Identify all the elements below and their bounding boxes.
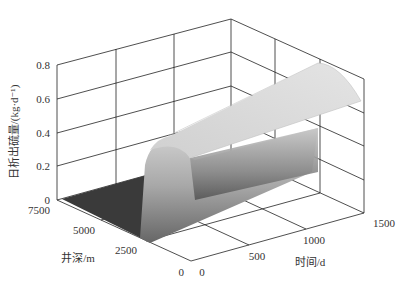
x-tick-1: 500 xyxy=(249,250,266,262)
y-axis-label: 井深/m xyxy=(61,251,95,264)
x-tick-0: 0 xyxy=(199,266,205,278)
x-axis-label: 时间/d xyxy=(295,256,326,268)
z-tick-2: 0.4 xyxy=(36,127,50,139)
y-tick-2: 5000 xyxy=(73,224,96,236)
surface-chart: 0 0.2 0.4 0.6 0.8 日析出硫量/(kg·d⁻¹) 0 2500 … xyxy=(0,0,411,292)
z-axis-ticks: 0 0.2 0.4 0.6 0.8 xyxy=(36,59,50,206)
y-tick-0: 0 xyxy=(179,266,185,278)
z-tick-4: 0.8 xyxy=(36,59,50,71)
z-tick-1: 0.2 xyxy=(36,160,50,172)
x-tick-2: 1000 xyxy=(303,234,326,246)
x-axis-ticks: 0 500 1000 1500 xyxy=(199,217,395,278)
z-axis-label: 日析出硫量/(kg·d⁻¹) xyxy=(7,84,21,179)
x-tick-3: 1500 xyxy=(373,217,396,229)
y-tick-3: 7500 xyxy=(28,204,51,216)
y-tick-1: 2500 xyxy=(115,244,138,256)
z-tick-3: 0.6 xyxy=(36,93,50,105)
